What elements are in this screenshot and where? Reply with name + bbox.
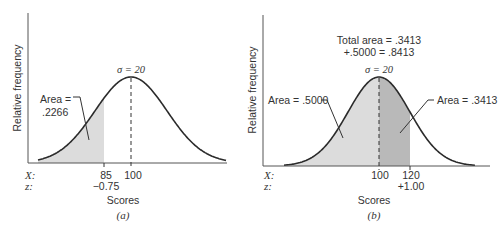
area-annotation-line2: .2266: [42, 106, 68, 118]
shaded-area-mean-to-120: [379, 77, 410, 166]
area-annotation-line1: Area =: [40, 93, 71, 105]
sigma-label: σ = 20: [117, 64, 146, 75]
panel-b: Relative frequency Total area = .3413 +.…: [246, 15, 498, 222]
area-label-left: Area = .5000: [268, 94, 329, 106]
z-label-neg075: −0.75: [93, 180, 120, 192]
caption-b: (b): [368, 209, 381, 222]
area-label-right: Area = .3413: [437, 94, 498, 106]
x-axis-label: Scores: [358, 194, 391, 206]
panel-a: Relative frequency σ = 20 Area = .2266 X…: [11, 13, 227, 222]
tick-label-100: 100: [371, 169, 389, 181]
sigma-label: σ = 20: [365, 64, 394, 75]
tick-label-100: 100: [124, 169, 142, 181]
z-row-label: z:: [24, 180, 33, 192]
total-area-line2: +.5000 = .8413: [344, 46, 415, 58]
sigma-label-text: σ = 20: [365, 64, 394, 75]
figure: Relative frequency σ = 20 Area = .2266 X…: [0, 0, 501, 230]
total-area-line1: Total area = .3413: [337, 34, 422, 46]
sigma-label-text: σ = 20: [117, 64, 146, 75]
z-label-pos100: +1.00: [398, 180, 425, 192]
shaded-area-left-half: [284, 77, 379, 166]
x-axis-label: Scores: [107, 194, 140, 206]
z-row-label: z:: [263, 180, 272, 192]
y-axis-label: Relative frequency: [11, 44, 23, 132]
caption-a: (a): [117, 209, 130, 222]
y-axis-label: Relative frequency: [246, 46, 258, 134]
